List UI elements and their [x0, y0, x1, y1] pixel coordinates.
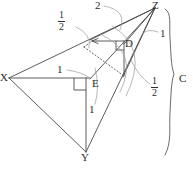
dashed-x-to-d: [84, 47, 124, 76]
fan-z-to-upperleft: [90, 8, 155, 40]
measure-label-upper-half: 1 2: [58, 10, 65, 32]
fraction-numerator: 1: [151, 76, 158, 86]
brace-c: [165, 9, 174, 155]
brace-label-c: C: [179, 73, 186, 84]
fraction-denominator: 2: [151, 88, 158, 98]
vertex-label-x: X: [0, 72, 8, 83]
vertex-label-y: Y: [81, 152, 89, 163]
measure-label-xe-one: 1: [57, 64, 63, 75]
measure-label-ey-one: 1: [89, 104, 95, 115]
geometry-diagram: X Y Z D E 2 1 2 1 1 2 1 1 C: [0, 0, 193, 172]
right-angle-at-e: [74, 78, 86, 90]
leader-arc-lower-half: [131, 60, 150, 84]
vertex-label-e: E: [92, 78, 99, 89]
measure-label-right-one: 1: [160, 28, 166, 39]
vertex-label-d: D: [125, 38, 133, 49]
vertex-label-z: Z: [152, 0, 159, 11]
measure-label-lower-half: 1 2: [151, 76, 158, 98]
measure-label-two: 2: [95, 0, 101, 11]
fraction-numerator: 1: [58, 10, 65, 20]
leader-arc-xe: [67, 70, 90, 78]
fraction-denominator: 2: [58, 22, 65, 32]
